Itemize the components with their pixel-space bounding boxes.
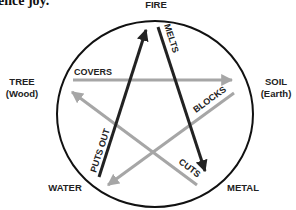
- melts-arrow: [158, 27, 205, 171]
- covers-label: COVERS: [74, 67, 112, 77]
- element-metal: METAL: [218, 182, 268, 194]
- soil-name: SOIL: [254, 76, 296, 88]
- metal-name: METAL: [218, 182, 268, 194]
- five-elements-diagram: COVERS MELTS BLOCKS PUTS OUT CUTS: [0, 0, 296, 210]
- element-soil: SOIL (Earth): [254, 76, 296, 100]
- cuts-label: CUTS: [177, 157, 203, 180]
- element-tree: TREE (Wood): [0, 76, 44, 100]
- blocks-arrow: [108, 93, 234, 185]
- cycle-circle: [57, 21, 253, 207]
- element-water: WATER: [40, 182, 90, 194]
- soil-sub: (Earth): [254, 88, 296, 100]
- water-name: WATER: [40, 182, 90, 194]
- puts-out-arrow: [99, 30, 146, 177]
- tree-sub: (Wood): [0, 88, 44, 100]
- fire-name: FIRE: [136, 0, 176, 11]
- tree-name: TREE: [0, 76, 44, 88]
- element-fire: FIRE: [136, 0, 176, 11]
